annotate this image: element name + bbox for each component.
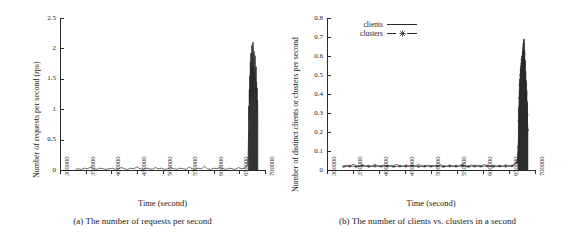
x-tick-label: 650000 <box>512 157 519 177</box>
y-tick <box>327 18 331 19</box>
star-icon <box>417 165 420 168</box>
x-tick <box>535 170 536 174</box>
x-tick <box>353 170 354 174</box>
y-tick-label: 0.5 <box>297 72 323 79</box>
x-tick <box>163 170 164 174</box>
x-tick <box>265 170 266 174</box>
y-tick-label: 0.4 <box>297 91 323 98</box>
x-tick-label: 500000 <box>434 157 441 177</box>
x-tick-label: 450000 <box>140 157 147 177</box>
panel-a-plot-area: 00.511.522.5 300000350000400000450000500… <box>60 18 265 170</box>
star-icon <box>504 165 507 168</box>
y-tick <box>60 79 64 80</box>
x-tick <box>239 170 240 174</box>
y-tick-label: 0.1 <box>297 148 323 155</box>
star-icon <box>473 165 476 168</box>
star-icon <box>399 30 406 37</box>
y-tick-label: 0 <box>297 167 323 174</box>
y-tick-label: 0.2 <box>297 129 323 136</box>
x-tick-label: 700000 <box>268 157 275 177</box>
panel-a-caption: (a) The number of requests per second <box>0 216 285 226</box>
x-tick-label: 500000 <box>166 157 173 177</box>
x-tick-label: 550000 <box>191 157 198 177</box>
star-icon <box>523 62 526 65</box>
y-tick-label: 0.8 <box>297 15 323 22</box>
star-icon <box>392 165 395 168</box>
legend-swatch-clients <box>387 20 417 29</box>
x-tick <box>431 170 432 174</box>
y-tick-label: 2 <box>30 45 56 52</box>
x-tick <box>214 170 215 174</box>
panel-a-x-axis-label: Time (second) <box>60 198 265 208</box>
y-tick-label: 1.5 <box>30 75 56 82</box>
chart-legend: clients clusters <box>349 20 417 38</box>
panel-b-caption: (b) The number of clients vs. clusters i… <box>285 216 570 226</box>
y-tick <box>327 94 331 95</box>
star-icon <box>525 93 528 96</box>
panel-b: Number of distinct clients or clusters p… <box>285 0 570 236</box>
x-tick-label: 550000 <box>460 157 467 177</box>
x-tick-label: 600000 <box>217 157 224 177</box>
x-tick-label: 300000 <box>63 157 70 177</box>
x-tick-label: 600000 <box>486 157 493 177</box>
legend-label-clients: clients <box>349 20 383 29</box>
star-icon <box>519 74 522 77</box>
star-icon <box>498 165 501 168</box>
x-tick <box>327 170 328 174</box>
star-icon <box>423 165 426 168</box>
panel-b-x-axis-label: Time (second) <box>327 198 535 208</box>
legend-swatch-clusters <box>387 29 417 38</box>
y-tick <box>327 75 331 76</box>
x-tick <box>60 170 61 174</box>
x-tick-label: 450000 <box>408 157 415 177</box>
legend-label-clusters: clusters <box>349 29 383 38</box>
star-icon <box>348 165 351 168</box>
panel-b-series-group <box>327 18 535 170</box>
panel-a-series-requests <box>60 18 265 170</box>
y-tick-label: 0 <box>30 167 56 174</box>
x-tick <box>86 170 87 174</box>
x-tick-label: 350000 <box>89 157 96 177</box>
x-tick-label: 350000 <box>356 157 363 177</box>
y-tick-label: 0.6 <box>297 53 323 60</box>
x-tick <box>111 170 112 174</box>
star-icon <box>522 43 525 46</box>
y-tick <box>327 113 331 114</box>
y-tick <box>60 109 64 110</box>
legend-item-clients: clients <box>349 20 417 29</box>
x-tick <box>483 170 484 174</box>
series-line-clusters <box>344 45 528 167</box>
y-tick <box>60 48 64 49</box>
star-icon <box>520 68 523 71</box>
series-line-requests <box>75 42 257 169</box>
y-tick-label: 2.5 <box>30 15 56 22</box>
y-tick <box>327 132 331 133</box>
panel-b-plot-area: 00.10.20.30.40.50.60.70.8 30000035000040… <box>327 18 535 170</box>
y-tick-label: 0.5 <box>30 136 56 143</box>
y-tick-label: 0.7 <box>297 34 323 41</box>
y-tick <box>327 151 331 152</box>
star-icon <box>518 96 521 99</box>
y-tick-label: 0.3 <box>297 110 323 117</box>
x-tick <box>457 170 458 174</box>
star-icon <box>398 165 401 168</box>
star-icon <box>430 165 433 168</box>
x-tick-label: 400000 <box>382 157 389 177</box>
legend-item-clusters: clusters <box>349 29 417 38</box>
star-icon <box>525 104 528 107</box>
figure-container: Number of requests per second (rps) 00.5… <box>0 0 570 236</box>
x-tick <box>509 170 510 174</box>
x-tick-label: 300000 <box>330 157 337 177</box>
x-tick-label: 650000 <box>242 157 249 177</box>
star-icon <box>467 165 470 168</box>
y-tick <box>327 56 331 57</box>
x-tick-label: 400000 <box>114 157 121 177</box>
y-tick <box>60 18 64 19</box>
y-tick <box>327 37 331 38</box>
x-tick <box>405 170 406 174</box>
y-tick-label: 1 <box>30 106 56 113</box>
x-tick <box>137 170 138 174</box>
panel-a: Number of requests per second (rps) 00.5… <box>0 0 285 236</box>
x-tick <box>188 170 189 174</box>
series-line-clients <box>344 39 528 166</box>
